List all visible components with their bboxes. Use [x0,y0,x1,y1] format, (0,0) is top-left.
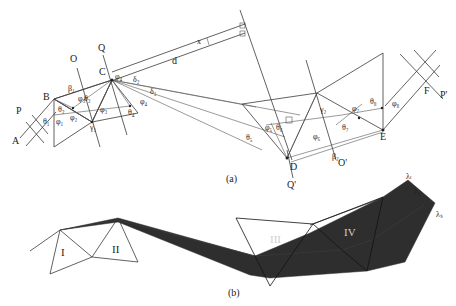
prism-I [50,230,92,274]
label-A: A [12,135,20,146]
label-beta2: β₂ [332,152,339,161]
label-Q-prime: Q' [287,179,296,190]
label-F: F [424,85,430,96]
label-theta4: θ₄ [128,108,135,117]
label-lambda-0: λ₀ [414,187,421,196]
label-O: O [70,53,77,64]
label-phi4: φ₄ [140,97,148,106]
label-phi6: φ₆ [313,132,321,141]
label-O-prime: O' [338,157,347,168]
panel-b: I II III IV λₗ λ₀ λₛ (b) [30,172,443,299]
outgoing-beam [383,50,440,130]
label-C: C [99,66,106,77]
label-P-prime: P' [440,89,448,100]
panel-a: A B C D E F P O Q Q' O' P' d x θ₁ θ₂ θ₃ … [12,10,448,190]
label-P: P [16,105,22,116]
label-phi2: φ₂ [70,113,78,122]
label-E: E [380,131,386,142]
label-theta8: θ₈ [370,97,377,106]
label-phi5: φ₅ [265,123,273,132]
label-phi8: φ₈ [392,99,400,108]
label-beta1: β₁ [68,84,75,93]
label-delta2: δ₂ [133,75,140,84]
line-O [77,68,100,147]
label-phi1: φ₁ [56,117,64,126]
line-P-prime [400,50,443,99]
label-phi4-top: φ₄ [115,72,123,81]
label-theta2: θ₂ [58,105,65,114]
label-lambda-l: λₗ [406,172,411,181]
label-prism-III: III [270,233,281,245]
label-theta1: θ₁ [43,117,50,126]
label-D: D [290,161,297,172]
label-lambda-s: λₛ [436,210,443,219]
label-prism-IV: IV [344,226,356,238]
label-Q: Q [98,42,106,53]
caption-a: (a) [226,173,237,185]
dispersed-beam [60,180,435,278]
label-gamma1: γ₁ [89,123,97,132]
label-prism-I: I [61,246,65,258]
label-phi7: φ₇ [352,104,360,113]
label-prism-II: II [112,243,120,255]
label-theta7: θ₇ [342,123,349,132]
label-delta1: δ₁ [150,87,157,96]
beam-d [112,23,245,80]
label-B: B [43,91,50,102]
label-theta6: θ₆ [276,123,283,132]
label-x: x [197,37,201,46]
label-d: d [172,55,177,66]
label-theta5: θ₅ [246,133,253,142]
label-gamma2: γ₂ [319,105,327,114]
label-phi3: φ₃ [78,94,86,103]
caption-b: (b) [228,287,240,299]
label-phi-mid: φ₃ [100,105,108,114]
prism-dispersion-diagram: A B C D E F P O Q Q' O' P' d x θ₁ θ₂ θ₃ … [0,0,456,306]
prism-5 [317,53,383,130]
